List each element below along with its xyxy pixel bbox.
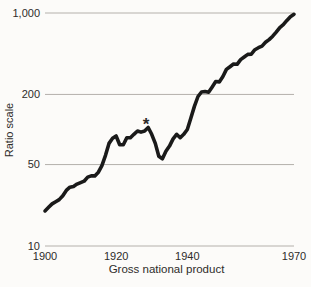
plot-area — [0, 0, 311, 287]
y-tick-label-1000: 1,000 — [0, 7, 40, 20]
annotation-asterisk: * — [143, 115, 150, 135]
x-tick-label-1940: 1940 — [175, 250, 199, 263]
x-tick-label-1900: 1900 — [33, 250, 57, 263]
gnp-curve — [45, 14, 294, 211]
x-tick-label-1920: 1920 — [104, 250, 128, 263]
y-axis-title: Ratio scale — [3, 103, 15, 157]
gnp-ratio-scale-chart: 10502001,000 1900192019401970 Ratio scal… — [0, 0, 311, 287]
y-tick-label-200: 200 — [0, 88, 40, 101]
x-axis-title: Gross national product — [109, 263, 225, 275]
y-tick-label-50: 50 — [0, 158, 40, 171]
x-tick-label-1970: 1970 — [282, 250, 306, 263]
